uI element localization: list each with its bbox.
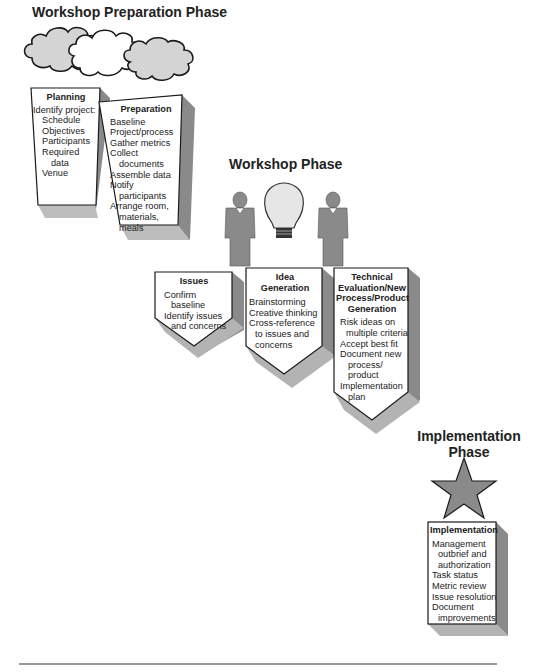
idea-item: to issues and (249, 329, 321, 340)
implementation-item: Management (430, 539, 496, 550)
technical-heading-line2: Evaluation/New (336, 283, 408, 294)
issues-heading: Issues (158, 276, 230, 287)
planning-item: Identify project: (33, 105, 99, 116)
star-icon (432, 458, 496, 518)
implementation-item: improvements (430, 613, 496, 624)
technical-heading-line4: Generation (336, 304, 408, 315)
cloud-icon (25, 28, 193, 81)
planning-item: data (33, 158, 99, 169)
issues-item: and concerns (158, 321, 230, 332)
planning-box: Planning Identify project: Schedule Obje… (33, 92, 99, 179)
implementation-item: authorization (430, 560, 496, 571)
preparation-item: Arrange room, (110, 201, 182, 212)
technical-item: process/ (336, 360, 408, 371)
planning-heading: Planning (33, 92, 99, 103)
planning-item: Required (33, 147, 99, 158)
idea-item: Creative thinking (249, 308, 321, 319)
implementation-item: outbrief and (430, 549, 496, 560)
preparation-heading: Preparation (110, 104, 182, 115)
technical-item: plan (336, 392, 408, 403)
technical-evaluation-box: Technical Evaluation/New Process/Product… (336, 272, 408, 402)
preparation-item: Baseline (110, 117, 182, 128)
implementation-item: Metric review (430, 581, 496, 592)
implementation-item: Task status (430, 570, 496, 581)
issues-item: Confirm (158, 290, 230, 301)
implementation-item: Document (430, 602, 496, 613)
implementation-item: Issue resolution (430, 592, 496, 603)
implementation-phase-title: Implementation Phase (415, 428, 523, 460)
planning-item: Venue (33, 168, 99, 179)
planning-item: Objectives (33, 126, 99, 137)
preparation-item: Project/process (110, 127, 182, 138)
preparation-item: Collect (110, 148, 182, 159)
technical-item: Accept best fit (336, 339, 408, 350)
planning-item: Schedule (33, 115, 99, 126)
preparation-item: documents (110, 159, 182, 170)
issues-item: Identify issues (158, 311, 230, 322)
preparation-item: Assemble data (110, 170, 182, 181)
preparation-item: materials, (110, 212, 182, 223)
technical-item: Implementation (336, 381, 408, 392)
planning-item: Participants (33, 136, 99, 147)
person-icon (318, 192, 348, 266)
technical-item: Document new (336, 349, 408, 360)
issues-box: Issues Confirm baseline Identify issues … (158, 276, 230, 332)
preparation-phase-title: Workshop Preparation Phase (32, 4, 227, 20)
lightbulb-icon (265, 183, 304, 238)
technical-item: Risk ideas on (336, 317, 408, 328)
technical-heading-line3: Process/Product (336, 293, 408, 304)
technical-heading-line1: Technical (336, 272, 408, 283)
preparation-item: Gather metrics (110, 138, 182, 149)
preparation-item: participants (110, 191, 182, 202)
implementation-heading: Implementation (430, 525, 496, 536)
idea-item: Brainstorming (249, 297, 321, 308)
idea-generation-box: Idea Generation Brainstorming Creative t… (249, 272, 321, 350)
person-icon (225, 192, 255, 266)
idea-item: concerns (249, 340, 321, 351)
workshop-phase-title: Workshop Phase (229, 156, 342, 172)
idea-item: Cross-reference (249, 318, 321, 329)
implementation-box: Implementation Management outbrief and a… (430, 525, 496, 623)
implementation-title-line1: Implementation (415, 428, 523, 444)
technical-item: product (336, 370, 408, 381)
idea-heading-line2: Generation (249, 283, 321, 294)
preparation-item: meals (110, 223, 182, 234)
preparation-item: Notify (110, 180, 182, 191)
preparation-box: Preparation Baseline Project/process Gat… (110, 104, 182, 233)
issues-item: baseline (158, 300, 230, 311)
idea-heading-line1: Idea (249, 272, 321, 283)
implementation-title-line2: Phase (415, 444, 523, 460)
technical-item: multiple criteria (336, 328, 408, 339)
